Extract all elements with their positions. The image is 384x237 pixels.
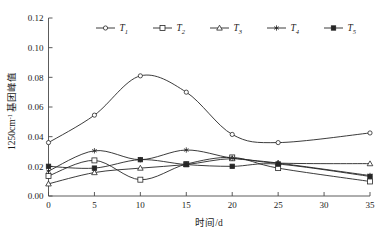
x-tick-label-4: 20: [228, 200, 238, 210]
marker-T5-4: [230, 164, 234, 168]
marker-T1-0: [46, 141, 50, 145]
x-tick-label-7: 35: [366, 200, 376, 210]
y-tick-label-2: 0.04: [28, 132, 44, 142]
y-tick-label-1: 0.02: [28, 162, 44, 172]
y-axis-title-main: 1250cm: [7, 119, 17, 150]
marker-T1-2: [138, 74, 142, 78]
marker-T5-5: [276, 162, 280, 166]
legend-marker-T2: [160, 26, 165, 31]
marker-T5-3: [184, 162, 188, 166]
marker-T5-6: [368, 174, 372, 178]
y-tick-label-0: 0.00: [28, 191, 44, 201]
marker-T2-2: [138, 177, 143, 182]
line-chart-canvas: 0.000.020.040.060.080.100.12 05101520253…: [0, 0, 384, 237]
y-axis-title-tail: 基团峰值: [6, 72, 17, 114]
y-tick-label-3: 0.06: [28, 102, 44, 112]
x-axis-title: 时间/d: [195, 217, 223, 228]
y-tick-label-5: 0.10: [28, 43, 44, 53]
legend-marker-T1: [103, 26, 107, 30]
y-axis-title: 1250cm-1 基团峰值: [6, 72, 17, 150]
marker-T2-0: [46, 173, 51, 178]
x-tick-label-5: 25: [274, 200, 284, 210]
marker-T1-6: [368, 131, 372, 135]
x-tick-label-1: 5: [92, 200, 97, 210]
marker-T2-1: [92, 158, 97, 163]
y-tick-label-4: 0.08: [28, 73, 44, 83]
chart-figure: 0.000.020.040.060.080.100.12 05101520253…: [0, 0, 384, 237]
x-tick-label-2: 10: [136, 200, 146, 210]
x-tick-label-3: 15: [182, 200, 192, 210]
y-tick-label-6: 0.12: [28, 13, 44, 23]
x-tick-label-6: 30: [320, 200, 330, 210]
marker-T1-1: [92, 113, 96, 117]
marker-T5-1: [92, 166, 96, 170]
marker-T5-0: [46, 164, 50, 168]
marker-T1-5: [276, 141, 280, 145]
marker-T1-4: [230, 132, 234, 136]
marker-T1-3: [184, 90, 188, 94]
marker-T2-6: [368, 179, 373, 184]
legend-marker-T5: [331, 26, 335, 30]
y-axis-title-text: 1250cm-1 基团峰值: [6, 72, 17, 150]
marker-T5-2: [138, 157, 142, 161]
x-tick-label-0: 0: [46, 200, 51, 210]
